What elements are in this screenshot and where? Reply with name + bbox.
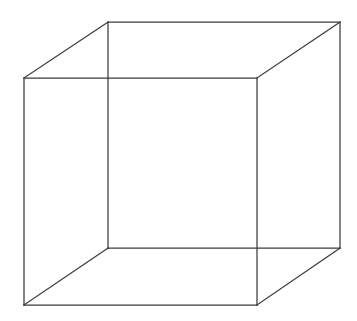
edge-connector-top-left: [24, 22, 108, 78]
edge-connector-bottom-right: [257, 248, 340, 305]
cube-back-face-edges: [108, 22, 340, 248]
cube-front-face-edges: [24, 78, 257, 305]
figure-canvas: [0, 0, 357, 321]
cube-depth-connector-edges: [24, 22, 340, 305]
edge-connector-top-right: [257, 22, 340, 78]
wireframe-cube-figure: [0, 0, 357, 321]
edge-connector-bottom-left: [24, 248, 108, 305]
